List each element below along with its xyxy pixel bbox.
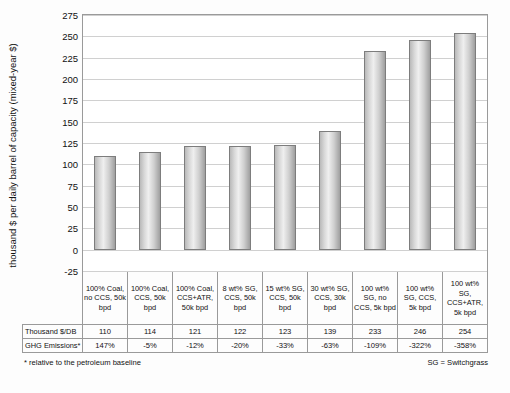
category-label: 8 wt% SG, CCS, 50k bpd <box>217 272 262 324</box>
bar-cell <box>173 15 218 271</box>
category-label: 15 wt% SG, CCS, 50k bpd <box>262 272 307 324</box>
bar-cell <box>218 15 263 271</box>
bar <box>139 152 161 249</box>
bar-cell <box>263 15 308 271</box>
table-cell: -5% <box>128 339 173 353</box>
table-cell: 110 <box>83 325 128 339</box>
bar-cell <box>397 15 442 271</box>
table-cell: 254 <box>443 325 488 339</box>
y-axis-title: thousand $ per daily barrel of capacity … <box>2 30 22 280</box>
y-axis-tick-label: 225 <box>62 52 78 63</box>
table-cell: -12% <box>173 339 218 353</box>
data-table-body: Thousand $/DB110114121122123139233246254… <box>23 325 488 353</box>
bar <box>274 145 296 250</box>
y-axis-tick-label: 0 <box>73 244 78 255</box>
footnote-baseline: * relative to the petroleum baseline <box>24 358 141 367</box>
bar <box>409 40 431 250</box>
table-cell: 123 <box>263 325 308 339</box>
table-cell: 114 <box>128 325 173 339</box>
category-label: 100 wt% SG, CCS+ATR, 5k bpd <box>442 272 488 324</box>
bar-cell <box>307 15 352 271</box>
bar <box>319 131 341 250</box>
y-axis-tick-label: 75 <box>67 180 78 191</box>
table-cell: 147% <box>83 339 128 353</box>
category-label: 100 wt% SG, CCS, 5k bpd <box>397 272 442 324</box>
table-cell: -109% <box>353 339 398 353</box>
table-cell: 246 <box>398 325 443 339</box>
plot-area: 2752502252001751501251007550250-25 <box>82 14 488 272</box>
table-cell: 121 <box>173 325 218 339</box>
y-axis-tick-label: 200 <box>62 74 78 85</box>
y-axis-tick-label: 175 <box>62 95 78 106</box>
y-axis-tick-label: 100 <box>62 159 78 170</box>
bar-cell <box>128 15 173 271</box>
category-label: 100% Coal, CCS, 50k bpd <box>127 272 172 324</box>
table-cell: -322% <box>398 339 443 353</box>
y-axis-tick-label: 250 <box>62 31 78 42</box>
table-cell: -358% <box>443 339 488 353</box>
table-cell: -63% <box>308 339 353 353</box>
bar-cell <box>442 15 487 271</box>
chart-page: thousand $ per daily barrel of capacity … <box>0 0 510 393</box>
footnotes: * relative to the petroleum baseline SG … <box>24 358 488 367</box>
bar <box>184 146 206 249</box>
table-row: GHG Emissions*147%-5%-12%-20%-33%-63%-10… <box>23 339 488 353</box>
table-cell: -20% <box>218 339 263 353</box>
table-row: Thousand $/DB110114121122123139233246254 <box>23 325 488 339</box>
category-label: 100% Coal, no CCS, 50k bpd <box>82 272 127 324</box>
bar-series <box>83 15 487 271</box>
category-label: 30 wt% SG, CCS, 30k bpd <box>307 272 352 324</box>
table-row-header: Thousand $/DB <box>23 325 83 339</box>
y-axis-tick-label: -25 <box>64 266 78 277</box>
bar <box>94 156 116 250</box>
footnote-switchgrass: SG = Switchgrass <box>427 358 488 367</box>
data-table: Thousand $/DB110114121122123139233246254… <box>22 324 488 353</box>
y-axis-title-text: thousand $ per daily barrel of capacity … <box>7 43 18 267</box>
table-cell: 139 <box>308 325 353 339</box>
y-axis-tick-label: 125 <box>62 138 78 149</box>
y-axis-tick-label: 150 <box>62 116 78 127</box>
bar-cell <box>83 15 128 271</box>
bar <box>229 146 251 250</box>
bar-cell <box>352 15 397 271</box>
table-cell: 233 <box>353 325 398 339</box>
y-axis-tick-label: 25 <box>67 223 78 234</box>
table-cell: 122 <box>218 325 263 339</box>
bar <box>454 33 476 250</box>
bar <box>364 51 386 250</box>
category-label-strip: 100% Coal, no CCS, 50k bpd100% Coal, CCS… <box>82 272 488 324</box>
y-axis-tick-label: 275 <box>62 10 78 21</box>
table-cell: -33% <box>263 339 308 353</box>
category-label: 100 wt% SG, no CCS, 5k bpd <box>352 272 397 324</box>
table-row-header: GHG Emissions* <box>23 339 83 353</box>
y-axis-tick-label: 50 <box>67 202 78 213</box>
category-label: 100% Coal, CCS+ATR, 50k bpd <box>172 272 217 324</box>
